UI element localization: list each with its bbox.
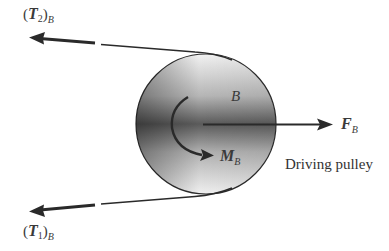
mb-label: MB [220,147,240,165]
fb-label: FB [341,115,358,133]
driving-pulley-caption: Driving pulley [285,156,373,173]
t2-label: (T2)B [23,5,54,23]
t1-label: (T1)B [23,222,54,240]
pulley-label: B [231,88,240,105]
pulley-diagram [0,0,389,251]
